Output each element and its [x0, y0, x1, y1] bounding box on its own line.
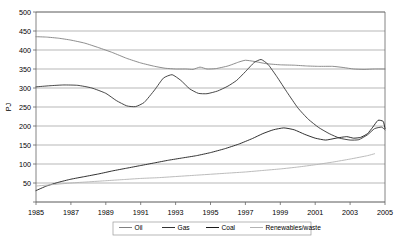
x-tick-label: 1997	[237, 208, 253, 217]
chart-legend: OilGasCoalRenewables/waste	[113, 222, 321, 235]
legend-label-renewables-waste: Renewables/waste	[266, 224, 322, 231]
y-tick-label: 250	[19, 103, 31, 112]
x-tick-label: 1995	[203, 208, 219, 217]
y-tick-label: 350	[19, 65, 31, 74]
x-tick-label: 1999	[272, 208, 288, 217]
x-tick-label: 2003	[342, 208, 358, 217]
chart-container: 50100150200250300350400450500 1985198719…	[0, 0, 406, 243]
line-chart: 50100150200250300350400450500 1985198719…	[0, 0, 406, 243]
y-tick-label: 300	[19, 84, 31, 93]
x-tick-label: 1987	[63, 208, 79, 217]
legend-label-coal: Coal	[222, 224, 236, 231]
y-tick-label: 50	[23, 179, 31, 188]
x-tick-label: 1993	[168, 208, 184, 217]
x-tick-label: 1985	[28, 208, 44, 217]
legend-label-gas: Gas	[178, 224, 191, 231]
legend-label-oil: Oil	[135, 224, 144, 231]
x-tick-label: 2005	[377, 208, 393, 217]
y-tick-label: 500	[19, 8, 31, 17]
y-tick-label: 100	[19, 160, 31, 169]
x-tick-label: 2001	[307, 208, 323, 217]
y-tick-label: 450	[19, 27, 31, 36]
chart-background	[0, 0, 406, 243]
y-tick-label: 400	[19, 46, 31, 55]
x-tick-label: 1989	[98, 208, 114, 217]
x-tick-label: 1991	[133, 208, 149, 217]
y-axis-title: PJ	[4, 102, 13, 111]
y-tick-label: 200	[19, 122, 31, 131]
y-tick-label: 150	[19, 141, 31, 150]
